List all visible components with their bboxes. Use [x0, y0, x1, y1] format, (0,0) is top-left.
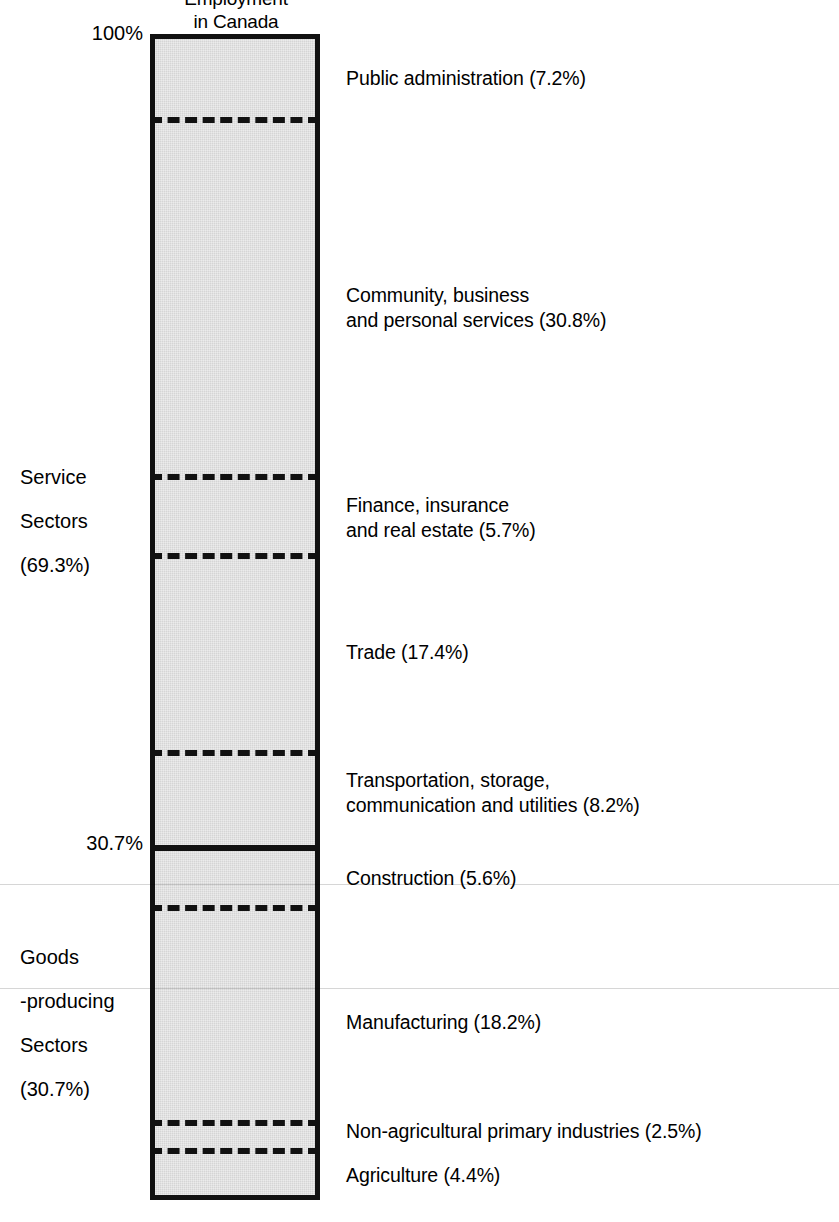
stacked-bar-chart: Employment in Canada 100% 30.7% Service … — [0, 0, 839, 1222]
segment-label-finance: Finance, insurance and real estate (5.7%… — [346, 493, 536, 543]
chart-title: Employment in Canada — [150, 0, 322, 33]
segment-label-construction: Construction (5.6%) — [346, 866, 516, 891]
divider-finance — [150, 553, 320, 559]
segment-label-trade: Trade (17.4%) — [346, 640, 469, 665]
scan-artifact-line — [0, 988, 839, 989]
divider-community-services — [150, 474, 320, 480]
divider-trade — [150, 750, 320, 756]
divider-sector-boundary — [150, 845, 320, 851]
scan-artifact-line — [0, 884, 839, 885]
group-label-goods-producing-sectors: Goods -producing Sectors (30.7%) — [20, 935, 150, 1111]
segment-label-transportation: Transportation, storage, communication a… — [346, 768, 640, 818]
axis-tick-100-label: 100% — [3, 22, 143, 44]
segment-label-community-services: Community, business and personal service… — [346, 283, 606, 333]
divider-public-administration — [150, 117, 320, 123]
axis-tick-30-7-label: 30.7% — [3, 832, 143, 854]
segment-label-public-administration: Public administration (7.2%) — [346, 66, 586, 91]
segment-label-manufacturing: Manufacturing (18.2%) — [346, 1010, 541, 1035]
divider-construction — [150, 905, 320, 911]
divider-non-agricultural — [150, 1148, 320, 1154]
group-label-service-sectors: Service Sectors (69.3%) — [20, 455, 150, 587]
bar-column — [150, 34, 320, 1200]
segment-label-non-agricultural: Non-agricultural primary industries (2.5… — [346, 1119, 702, 1144]
divider-manufacturing — [150, 1120, 320, 1126]
segment-label-agriculture: Agriculture (4.4%) — [346, 1163, 500, 1188]
